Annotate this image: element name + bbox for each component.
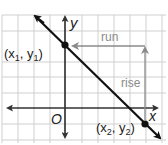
point-1 [61, 41, 68, 48]
point-2-label: (x2, y2) [96, 120, 135, 137]
y-axis-label: y [69, 14, 79, 31]
run-label: run [101, 30, 118, 44]
rise-label: rise [121, 76, 141, 90]
point-1-label: (x1, y1) [4, 46, 43, 63]
coordinate-plane: y x O run rise (x1, y1) (x2, y2) [0, 0, 168, 145]
x-axis-label: x [148, 108, 157, 124]
grid [2, 15, 166, 143]
origin-label: O [51, 111, 62, 127]
point-2 [141, 120, 148, 127]
